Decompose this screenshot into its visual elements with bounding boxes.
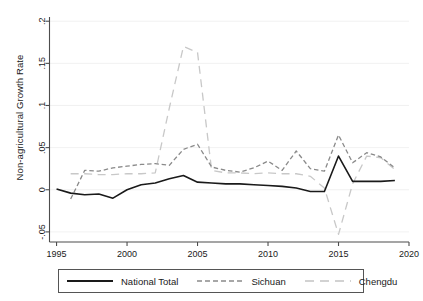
y-tick-label-0: -.05	[37, 224, 47, 240]
x-tick-label-3: 2010	[258, 249, 278, 259]
x-tick-label-4: 2015	[328, 249, 348, 259]
legend-swatch-dashed-icon	[195, 276, 245, 286]
y-tick-label-2: .05	[37, 141, 47, 154]
legend-item-national-total: National Total	[65, 276, 178, 287]
chart-svg: -.050.05.1.15.2199520002005201020152020	[0, 0, 423, 262]
y-axis-title: Non-agricultural Growth Rate	[14, 13, 25, 223]
y-tick-label-4: .15	[37, 57, 47, 70]
series-line-chengdu	[71, 46, 395, 234]
legend-item-chengdu: Chengdu	[303, 276, 398, 287]
legend-label-chengdu: Chengdu	[359, 276, 398, 287]
series-line-national-total	[57, 156, 395, 198]
legend-label-sichuan: Sichuan	[251, 276, 285, 287]
x-tick-label-1: 2000	[117, 249, 137, 259]
legend-swatch-longdash-icon	[303, 276, 353, 286]
x-tick-label-0: 1995	[47, 249, 67, 259]
y-tick-label-1: 0	[37, 187, 47, 192]
legend-swatch-solid-icon	[65, 276, 115, 286]
chart-legend: National Total Sichuan Chengdu	[58, 269, 364, 293]
legend-item-sichuan: Sichuan	[195, 276, 285, 287]
y-tick-label-5: .2	[37, 17, 47, 25]
chart-root: -.050.05.1.15.2199520002005201020152020 …	[0, 0, 423, 301]
y-tick-label-3: .1	[37, 102, 47, 110]
x-tick-label-2: 2005	[188, 249, 208, 259]
x-tick-label-5: 2020	[399, 249, 419, 259]
plot-area: -.050.05.1.15.2199520002005201020152020 …	[0, 0, 423, 262]
legend-label-national-total: National Total	[121, 276, 178, 287]
